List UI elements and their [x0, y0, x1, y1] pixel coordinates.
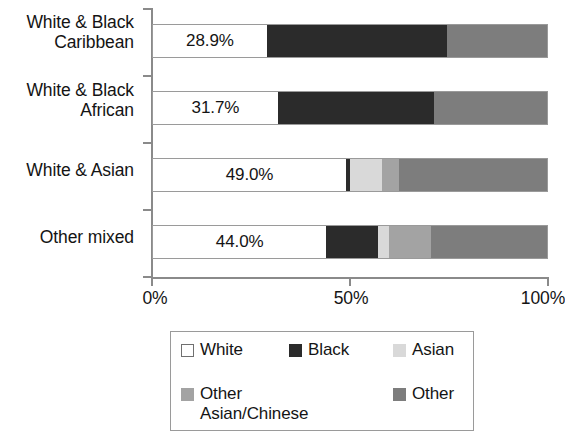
bar-segment-white: 49.0% [153, 159, 346, 191]
category-label-white-asian: White & Asian [0, 160, 134, 180]
bar-segment-asian [378, 226, 390, 258]
category-label-line: Other mixed [0, 227, 134, 247]
category-label-line: White & Asian [0, 160, 134, 180]
value-axis-tick [349, 277, 351, 286]
legend-swatch-black-icon [289, 344, 302, 357]
bar-segment-white: 28.9% [153, 25, 267, 57]
category-axis-tick [143, 209, 152, 211]
bar-segment-black [278, 92, 434, 124]
legend-item-other-asian-chinese: Other Asian/Chinese [171, 384, 393, 424]
value-axis-label-0: 0% [142, 288, 167, 309]
legend-label-other: Other [412, 384, 454, 404]
category-axis-labels: White & Black Caribbean White & Black Af… [0, 8, 142, 278]
bar-segment-other-asian-chinese [389, 226, 430, 258]
value-axis-label-100: 100% [521, 288, 565, 309]
bar-data-label: 28.9% [186, 31, 234, 51]
bar-data-label: 44.0% [216, 232, 264, 252]
bar-data-label: 31.7% [192, 98, 240, 118]
category-label-line: White & Black [0, 80, 134, 100]
legend-item-asian: Asian [393, 340, 473, 360]
bar-segment-white: 44.0% [153, 226, 326, 258]
legend-row-1: White Black Asian [171, 340, 473, 384]
bar-segment-other [434, 92, 547, 124]
bar-white-black-caribbean: 28.9% [152, 24, 548, 58]
legend-label-line: Other [200, 384, 242, 403]
category-label-line: African [0, 100, 134, 120]
bar-segment-other [447, 25, 547, 57]
legend: White Black Asian Other Asian/Chinese [170, 331, 474, 431]
bar-data-label: 49.0% [226, 165, 274, 185]
legend-item-other: Other [393, 384, 473, 404]
legend-item-black: Black [289, 340, 393, 360]
legend-label-other-asian-chinese: Other Asian/Chinese [200, 384, 308, 424]
legend-label-white: White [200, 340, 243, 360]
legend-swatch-asian-icon [393, 344, 406, 357]
category-label-other-mixed: Other mixed [0, 227, 134, 247]
bar-segment-asian [350, 159, 382, 191]
value-axis-label-50: 50% [334, 288, 369, 309]
value-axis-tick [547, 277, 549, 286]
category-axis-tick [143, 8, 152, 10]
legend-item-white: White [171, 340, 289, 360]
bar-white-black-african: 31.7% [152, 91, 548, 125]
legend-label-asian: Asian [412, 340, 454, 360]
category-axis-tick [143, 75, 152, 77]
value-axis-tick [151, 277, 153, 286]
category-label-line: White & Black [0, 12, 134, 32]
bar-segment-other [399, 159, 547, 191]
bar-segment-white: 31.7% [153, 92, 278, 124]
bar-other-mixed: 44.0% [152, 225, 548, 259]
category-label-white-black-african: White & Black African [0, 80, 134, 121]
bar-segment-black [326, 226, 377, 258]
category-label-white-black-caribbean: White & Black Caribbean [0, 12, 134, 53]
legend-swatch-other-icon [393, 388, 406, 401]
legend-swatch-white-icon [181, 344, 194, 357]
bar-segment-other [431, 226, 547, 258]
category-axis-tick [143, 142, 152, 144]
legend-swatch-other-asian-chinese-icon [181, 388, 194, 401]
legend-row-2: Other Asian/Chinese Other [171, 384, 473, 428]
legend-label-black: Black [308, 340, 349, 360]
legend-label-line: Asian/Chinese [200, 404, 308, 423]
bar-segment-other-asian-chinese [382, 159, 400, 191]
category-label-line: Caribbean [0, 32, 134, 52]
bar-segment-black [267, 25, 447, 57]
bar-white-asian: 49.0% [152, 158, 548, 192]
plot-area: 28.9% 31.7% 49.0% 44.0% [152, 8, 548, 278]
